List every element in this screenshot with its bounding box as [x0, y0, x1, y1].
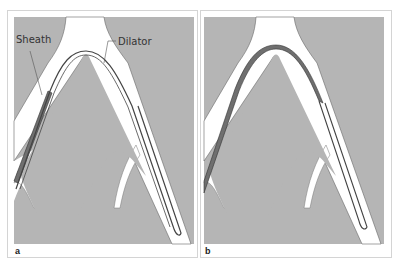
- panel-a: Sheath Dilator a: [7, 10, 198, 258]
- dilator-label: Dilator: [118, 36, 152, 47]
- vessel-diagram-b: [201, 11, 393, 259]
- panel-label-a: a: [15, 246, 20, 256]
- sheath-label: Sheath: [16, 34, 51, 45]
- vessel-diagram-a: [8, 11, 199, 259]
- panel-label-b: b: [205, 246, 211, 256]
- panel-b: b: [200, 10, 392, 258]
